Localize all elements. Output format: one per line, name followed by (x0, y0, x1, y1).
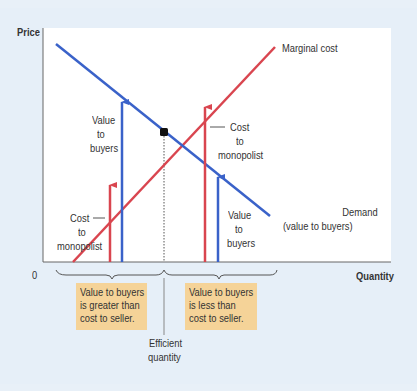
diagram-svg (0, 0, 417, 391)
box-right-line2: is less than (189, 299, 243, 312)
efficient-label-1: Efficient (149, 337, 182, 350)
cost-right-label-2: to (236, 135, 244, 148)
left-brace (56, 270, 164, 279)
demand-label-line1: Demand (326, 206, 394, 219)
box-left-line2: is greater than (80, 299, 134, 312)
efficient-label-2: quantity (148, 351, 181, 364)
box-right-line3: cost to seller. (189, 312, 243, 325)
box-value-greater: Value to buyers is greater than cost to … (76, 283, 147, 330)
value-right-label-1: Value (228, 209, 251, 222)
demand-label: Demand (320, 206, 400, 219)
value-right-label-2: to (235, 223, 243, 236)
cost-left-label-2: to (78, 226, 86, 239)
value-right-label-3: buyers (227, 237, 255, 250)
value-left-label-2: to (97, 128, 105, 141)
origin-label: 0 (32, 269, 37, 282)
intersection-point (160, 128, 168, 136)
demand-label-line2: (value to buyers) (283, 220, 353, 233)
box-left-line3: cost to seller. (80, 312, 134, 325)
cost-left-label-1: Cost (70, 212, 89, 225)
box-value-less: Value to buyers is less than cost to sel… (185, 283, 257, 330)
value-left-label-3: buyers (90, 142, 118, 155)
x-axis-label: Quantity (356, 270, 394, 282)
cost-right-label-3: monopolist (218, 149, 263, 162)
right-brace (164, 270, 277, 279)
cost-right-label-1: Cost (230, 121, 249, 134)
cost-left-label-3: monopolist (57, 240, 102, 253)
y-axis-label: Price (17, 26, 40, 38)
box-right-line1: Value to buyers (189, 286, 243, 299)
marginal-cost-label: Marginal cost (282, 42, 338, 55)
box-left-line1: Value to buyers (80, 286, 134, 299)
value-left-label-1: Value (92, 114, 115, 127)
